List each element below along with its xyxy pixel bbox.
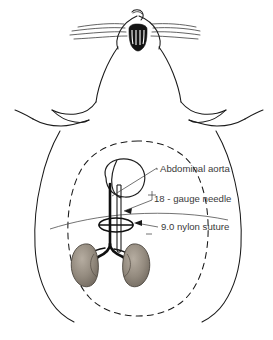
label-group: Abdominal aorta 18 - gauge needle 9.0 ny… xyxy=(154,163,231,232)
label-abdominal-aorta: Abdominal aorta xyxy=(160,163,231,174)
left-kidney xyxy=(71,244,98,287)
diagram-canvas: Abdominal aorta 18 - gauge needle 9.0 ny… xyxy=(0,0,273,340)
suture-loop xyxy=(99,218,133,234)
forelimb-group xyxy=(15,102,263,126)
label-nylon-suture: 9.0 nylon suture xyxy=(161,221,229,232)
label-gauge-needle: 18 - gauge needle xyxy=(154,193,231,204)
leader-lines xyxy=(112,168,158,234)
head-group xyxy=(70,10,200,102)
right-kidney xyxy=(123,244,150,287)
mouth-dark xyxy=(129,24,147,51)
arrowhead-needle xyxy=(124,208,132,214)
kidney-group xyxy=(71,244,150,287)
arrowhead-suture xyxy=(134,220,142,226)
anatomical-figure: Abdominal aorta 18 - gauge needle 9.0 ny… xyxy=(0,0,273,340)
